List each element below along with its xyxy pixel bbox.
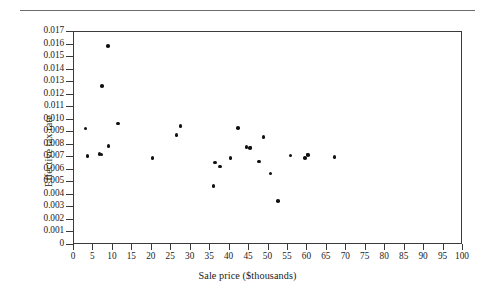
x-axis-tick bbox=[229, 244, 230, 250]
x-axis-tick bbox=[73, 244, 74, 250]
x-axis-tick-label: 45 bbox=[243, 252, 252, 261]
x-axis-tick bbox=[287, 244, 288, 250]
data-point bbox=[107, 144, 111, 148]
y-axis-tick-label: 0.013 bbox=[44, 76, 64, 85]
y-axis-tick-label: 0.003 bbox=[44, 202, 64, 211]
y-axis-tick-label: 0.001 bbox=[44, 227, 64, 236]
data-point bbox=[116, 122, 120, 126]
x-axis-tick bbox=[443, 244, 444, 250]
x-axis-tick bbox=[462, 244, 463, 250]
x-axis-tick bbox=[131, 244, 132, 250]
data-point bbox=[175, 133, 179, 137]
x-axis-tick-label: 10 bbox=[107, 252, 116, 261]
data-point bbox=[236, 126, 240, 130]
y-axis-tick-label: 0 bbox=[59, 239, 64, 248]
x-axis-tick bbox=[404, 244, 405, 250]
y-axis-tick bbox=[66, 106, 73, 107]
x-axis-tick-label: 35 bbox=[204, 252, 213, 261]
x-axis-tick-label: 70 bbox=[341, 252, 350, 261]
header-rule bbox=[20, 10, 475, 11]
y-axis-tick bbox=[66, 144, 73, 145]
x-axis-tick bbox=[170, 244, 171, 250]
x-axis-tick-label: 90 bbox=[418, 252, 427, 261]
data-point bbox=[100, 153, 104, 157]
y-axis-tick-label: 0.011 bbox=[44, 102, 64, 111]
data-point bbox=[179, 124, 183, 128]
y-axis-title: Effective tax rate bbox=[43, 115, 54, 187]
x-axis-tick-label: 100 bbox=[455, 252, 469, 261]
x-axis-title: Sale price ($thousands) bbox=[0, 270, 495, 281]
x-axis-tick-label: 50 bbox=[263, 252, 272, 261]
y-axis-tick bbox=[66, 131, 73, 132]
y-axis-tick-label: 0.004 bbox=[44, 189, 64, 198]
y-axis-tick-label: 0.016 bbox=[44, 39, 64, 48]
x-axis-tick bbox=[268, 244, 269, 250]
data-point bbox=[269, 172, 273, 176]
x-axis-tick-label: 30 bbox=[185, 252, 194, 261]
y-axis-tick bbox=[66, 94, 73, 95]
y-axis-tick bbox=[66, 81, 73, 82]
data-point bbox=[218, 165, 222, 169]
x-axis-tick bbox=[112, 244, 113, 250]
x-axis-tick-label: 20 bbox=[146, 252, 155, 261]
data-point bbox=[100, 84, 104, 88]
x-axis-tick bbox=[345, 244, 346, 250]
data-point bbox=[306, 153, 310, 157]
data-point bbox=[276, 199, 280, 203]
data-point bbox=[303, 156, 307, 160]
x-axis-tick bbox=[248, 244, 249, 250]
data-point bbox=[262, 135, 266, 139]
x-axis-tick bbox=[306, 244, 307, 250]
y-axis-tick bbox=[66, 219, 73, 220]
y-axis-tick-label: 0.017 bbox=[44, 26, 64, 35]
y-axis-tick bbox=[66, 56, 73, 57]
x-axis-tick-label: 40 bbox=[224, 252, 233, 261]
data-point bbox=[249, 146, 253, 150]
y-axis-tick bbox=[66, 181, 73, 182]
x-axis-tick-label: 15 bbox=[127, 252, 136, 261]
y-axis-tick bbox=[66, 44, 73, 45]
y-axis-labels: 00.0010.0020.0030.0040.0050.0060.0070.00… bbox=[0, 0, 64, 301]
x-axis-tick bbox=[384, 244, 385, 250]
data-point bbox=[229, 156, 233, 160]
y-axis-tick bbox=[66, 244, 73, 245]
data-point bbox=[289, 154, 293, 158]
data-point bbox=[257, 160, 261, 164]
x-axis-tick bbox=[190, 244, 191, 250]
x-axis-tick-label: 0 bbox=[71, 252, 76, 261]
x-axis-tick-label: 5 bbox=[90, 252, 95, 261]
y-axis-tick bbox=[66, 206, 73, 207]
x-axis-tick bbox=[423, 244, 424, 250]
x-axis-tick-label: 55 bbox=[282, 252, 291, 261]
data-point bbox=[212, 184, 216, 188]
y-axis-tick-label: 0.002 bbox=[44, 214, 64, 223]
data-point bbox=[213, 161, 217, 165]
y-axis-tick-label: 0.015 bbox=[44, 51, 64, 60]
data-point bbox=[333, 155, 337, 159]
y-axis-tick bbox=[66, 119, 73, 120]
x-axis-tick bbox=[209, 244, 210, 250]
x-axis-tick bbox=[365, 244, 366, 250]
x-axis-tick bbox=[151, 244, 152, 250]
x-axis-tick-label: 80 bbox=[380, 252, 389, 261]
data-point bbox=[86, 154, 90, 158]
y-axis-tick bbox=[66, 231, 73, 232]
x-axis-tick-label: 60 bbox=[302, 252, 311, 261]
x-axis-tick-label: 65 bbox=[321, 252, 330, 261]
data-point bbox=[106, 44, 110, 48]
data-point bbox=[151, 156, 155, 160]
x-axis-tick-label: 95 bbox=[438, 252, 447, 261]
y-axis-tick bbox=[66, 194, 73, 195]
data-points-layer bbox=[74, 32, 461, 243]
x-axis-tick-label: 75 bbox=[360, 252, 369, 261]
x-axis-tick bbox=[92, 244, 93, 250]
y-axis-tick bbox=[66, 69, 73, 70]
y-axis-tick bbox=[66, 169, 73, 170]
scatter-plot-figure: 00.0010.0020.0030.0040.0050.0060.0070.00… bbox=[0, 0, 495, 301]
y-axis-tick bbox=[66, 31, 73, 32]
data-point bbox=[84, 127, 88, 131]
x-axis-tick-label: 85 bbox=[399, 252, 408, 261]
plot-area bbox=[73, 31, 462, 244]
x-axis-tick-label: 25 bbox=[166, 252, 175, 261]
y-axis-tick-label: 0.012 bbox=[44, 89, 64, 98]
